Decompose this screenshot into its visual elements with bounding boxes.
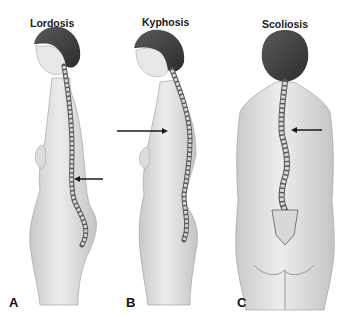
scoliosis-figure	[236, 30, 335, 310]
kyphosis-figure	[117, 30, 198, 305]
panel-c-label: C	[237, 295, 246, 310]
panel-a-label: A	[9, 295, 18, 310]
spine-curvature-illustration	[0, 0, 346, 317]
lordosis-figure	[30, 27, 103, 305]
panel-b-label: B	[126, 295, 135, 310]
